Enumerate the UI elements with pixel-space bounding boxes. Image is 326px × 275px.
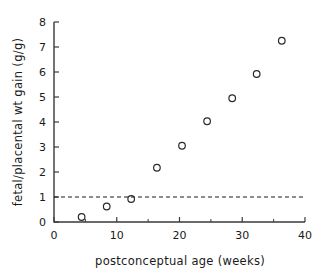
y-tick-label: 7 — [39, 41, 46, 54]
y-tick-label: 0 — [39, 216, 46, 229]
x-tick-label: 30 — [235, 229, 249, 242]
data-point-marker — [204, 118, 211, 125]
y-tick-label: 6 — [39, 66, 46, 79]
axis-spine — [54, 22, 305, 222]
data-point-marker — [103, 203, 110, 210]
tick-labels-group: 012345678010203040 — [39, 16, 312, 242]
x-tick-label: 20 — [173, 229, 187, 242]
data-points-group — [78, 37, 285, 220]
x-tick-label: 40 — [298, 229, 312, 242]
y-tick-label: 1 — [39, 191, 46, 204]
data-point-marker — [179, 142, 186, 149]
data-point-marker — [229, 95, 236, 102]
x-tick-label: 10 — [110, 229, 124, 242]
x-tick-label: 0 — [51, 229, 58, 242]
y-tick-label: 4 — [39, 116, 46, 129]
x-axis-title: postconceptual age (weeks) — [95, 254, 265, 268]
data-point-marker — [154, 164, 161, 171]
data-point-marker — [253, 71, 260, 78]
scatter-plot-figure: 012345678010203040 postconceptual age (w… — [0, 0, 326, 275]
y-tick-label: 2 — [39, 166, 46, 179]
y-tick-label: 3 — [39, 141, 46, 154]
y-tick-label: 8 — [39, 16, 46, 29]
data-point-marker — [78, 214, 85, 221]
y-axis-title: fetal/placental wt gain (g/g) — [11, 38, 25, 207]
plot-canvas: 012345678010203040 postconceptual age (w… — [0, 0, 326, 275]
y-tick-label: 5 — [39, 91, 46, 104]
data-point-marker — [278, 37, 285, 44]
plot-axes — [54, 22, 305, 222]
